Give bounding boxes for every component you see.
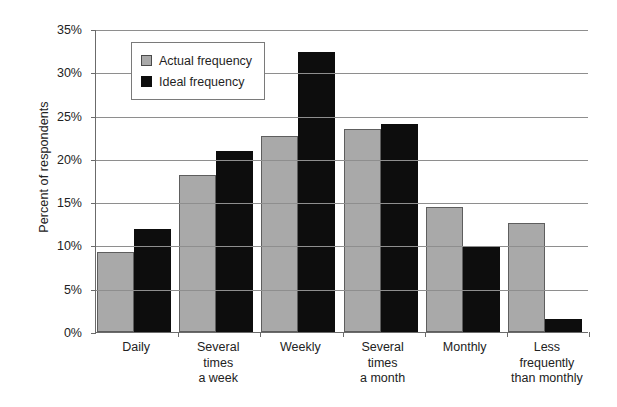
- gridline: [96, 117, 588, 118]
- bar-ideal: [545, 319, 582, 332]
- x-axis-tick-label: Weekly: [259, 340, 341, 356]
- x-axis-label-line: Less: [506, 340, 588, 356]
- y-axis-tick-label: 30%: [30, 66, 82, 80]
- bar-actual: [426, 207, 463, 332]
- y-axis-tick-mark: [91, 160, 96, 161]
- y-axis-tick-label: 25%: [30, 110, 82, 124]
- x-axis-tick-mark: [343, 332, 344, 337]
- bar-actual: [179, 175, 216, 332]
- y-axis-tick-mark: [91, 203, 96, 204]
- gridline: [96, 203, 588, 204]
- x-axis-label-line: Daily: [95, 340, 177, 356]
- y-axis-tick-label: 20%: [30, 153, 82, 167]
- gridline: [96, 290, 588, 291]
- legend-item-label: Ideal frequency: [159, 75, 244, 89]
- y-axis-tick-mark: [91, 246, 96, 247]
- x-axis-label-line: Weekly: [259, 340, 341, 356]
- y-axis-tick-label: 5%: [30, 283, 82, 297]
- y-axis-tick-mark: [91, 30, 96, 31]
- x-axis-label-line: Several: [342, 340, 424, 356]
- bar-chart: Percent of respondents 0%5%10%15%20%25%3…: [0, 0, 617, 407]
- y-axis-tick-labels: 0%5%10%15%20%25%30%35%: [30, 0, 82, 407]
- actual-swatch: [141, 55, 152, 66]
- y-axis-tick-label: 0%: [30, 326, 82, 340]
- x-axis-tick-label: Lessfrequentlythan monthly: [506, 340, 588, 387]
- x-axis-label-line: a month: [342, 371, 424, 387]
- y-axis-tick-mark: [91, 73, 96, 74]
- y-axis-tick-label: 10%: [30, 239, 82, 253]
- chart-legend: Actual frequencyIdeal frequency: [131, 42, 265, 100]
- bar-ideal: [216, 151, 253, 332]
- legend-item: Actual frequency: [141, 50, 252, 71]
- x-axis-tick-mark: [425, 332, 426, 337]
- x-axis-label-line: a week: [177, 371, 259, 387]
- x-axis-tick-label: Severaltimesa week: [177, 340, 259, 387]
- x-axis-tick-mark: [589, 332, 590, 337]
- y-axis-tick-label: 35%: [30, 23, 82, 37]
- bar-actual: [97, 252, 134, 332]
- x-axis-label-line: times: [177, 356, 259, 372]
- gridline: [96, 160, 588, 161]
- x-axis-tick-label: Monthly: [424, 340, 506, 356]
- bar-actual: [261, 136, 298, 332]
- bar-ideal: [134, 229, 171, 332]
- y-axis-tick-mark: [91, 290, 96, 291]
- x-axis-label-line: than monthly: [506, 371, 588, 387]
- bar-ideal: [381, 124, 418, 332]
- legend-item: Ideal frequency: [141, 71, 252, 92]
- legend-item-label: Actual frequency: [159, 54, 252, 68]
- x-axis-tick-label: Severaltimesa month: [342, 340, 424, 387]
- x-axis-tick-mark: [178, 332, 179, 337]
- gridline: [96, 30, 588, 31]
- y-axis-tick-mark: [91, 333, 96, 334]
- x-axis-label-line: Several: [177, 340, 259, 356]
- x-axis-tick-mark: [507, 332, 508, 337]
- y-axis-tick-mark: [91, 117, 96, 118]
- x-axis-label-line: Monthly: [424, 340, 506, 356]
- x-axis-tick-label: Daily: [95, 340, 177, 356]
- bar-actual: [508, 223, 545, 332]
- y-axis-tick-label: 15%: [30, 196, 82, 210]
- x-axis-tick-labels: DailySeveraltimesa weekWeeklySeveraltime…: [95, 340, 588, 404]
- gridline: [96, 246, 588, 247]
- ideal-swatch: [141, 76, 152, 87]
- x-axis-tick-mark: [260, 332, 261, 337]
- x-axis-label-line: times: [342, 356, 424, 372]
- x-axis-label-line: frequently: [506, 356, 588, 372]
